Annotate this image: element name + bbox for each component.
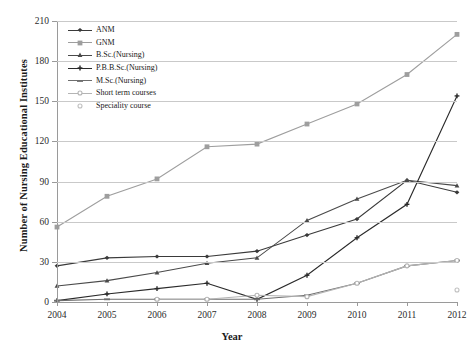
data-point-marker	[155, 297, 159, 301]
y-axis-title: Number of Nursing Educational Institutes	[18, 41, 29, 271]
data-point-marker	[305, 233, 310, 237]
y-tick-label: 120	[11, 136, 49, 146]
legend-item-short-term-courses[interactable]: Short term courses	[68, 87, 157, 100]
y-tick-mark	[52, 141, 57, 142]
data-point-marker	[155, 176, 160, 181]
legend-item-p-b-b-sc-nursing[interactable]: P.B.B.Sc.(Nursing)	[68, 62, 157, 75]
x-tick-label: 2009	[284, 310, 330, 320]
data-point-marker	[104, 298, 110, 300]
y-tick-label: 90	[11, 177, 49, 187]
gridline	[57, 141, 457, 142]
legend-swatch-icon	[68, 88, 92, 98]
gridline	[57, 262, 457, 263]
data-point-marker	[405, 72, 410, 77]
legend-label: P.B.B.Sc.(Nursing)	[96, 64, 157, 72]
data-point-marker	[205, 144, 210, 149]
y-tick-mark	[52, 21, 57, 22]
series-line	[57, 180, 457, 286]
y-tick-label: 0	[11, 297, 49, 307]
data-point-marker	[455, 94, 460, 99]
data-point-marker	[305, 295, 309, 299]
legend-label: M.Sc.(Nursing)	[96, 77, 146, 85]
data-point-marker	[205, 297, 209, 301]
data-point-marker	[78, 53, 83, 57]
data-point-marker	[405, 264, 409, 268]
legend-label: Short term courses	[96, 89, 156, 97]
x-tick-label: 2006	[134, 310, 180, 320]
legend-label: ANM	[96, 26, 115, 34]
x-tick-mark	[207, 302, 208, 306]
legend-swatch-icon	[68, 63, 92, 73]
data-point-marker	[155, 286, 160, 291]
data-point-marker	[105, 256, 110, 260]
data-point-marker	[205, 281, 210, 286]
x-tick-label: 2008	[234, 310, 280, 320]
y-tick-label: 180	[11, 56, 49, 66]
y-tick-label: 210	[11, 16, 49, 26]
series-line	[157, 261, 457, 300]
series-p-b-b-sc-nursing	[55, 94, 460, 304]
x-tick-mark	[357, 302, 358, 306]
data-point-marker	[78, 40, 83, 45]
y-tick-mark	[52, 61, 57, 62]
data-point-marker	[155, 254, 160, 258]
legend-swatch-icon	[68, 76, 92, 86]
legend-swatch-icon	[68, 38, 92, 48]
data-point-marker	[78, 66, 83, 71]
x-tick-mark	[57, 302, 58, 306]
legend-item-b-sc-nursing[interactable]: B.Sc.(Nursing)	[68, 49, 157, 62]
legend-label: GNM	[96, 39, 115, 47]
x-tick-label: 2011	[384, 310, 430, 320]
legend-item-speciality-course[interactable]: Speciality course	[68, 100, 157, 113]
data-point-marker	[105, 194, 110, 199]
y-tick-mark	[52, 222, 57, 223]
data-point-marker	[255, 249, 260, 253]
y-tick-label: 30	[11, 257, 49, 267]
y-tick-mark	[52, 262, 57, 263]
legend-item-anm[interactable]: ANM	[68, 24, 157, 37]
y-tick-mark	[52, 182, 57, 183]
y-axis-line	[57, 21, 58, 302]
gridline	[57, 182, 457, 183]
data-point-marker	[455, 190, 460, 194]
legend: ANMGNMB.Sc.(Nursing)P.B.B.Sc.(Nursing)M.…	[68, 24, 157, 112]
series-b-sc-nursing	[55, 178, 460, 288]
data-point-marker	[305, 122, 310, 127]
legend-swatch-icon	[68, 25, 92, 35]
y-tick-label: 60	[11, 217, 49, 227]
legend-item-gnm[interactable]: GNM	[68, 37, 157, 50]
x-tick-mark	[157, 302, 158, 306]
legend-item-m-sc-nursing[interactable]: M.Sc.(Nursing)	[68, 74, 157, 87]
data-point-marker	[78, 91, 82, 95]
legend-swatch-icon	[68, 50, 92, 60]
x-tick-mark	[257, 302, 258, 306]
data-point-marker	[105, 292, 110, 297]
data-point-marker	[255, 142, 260, 147]
x-tick-label: 2012	[434, 310, 471, 320]
data-point-marker	[78, 28, 83, 32]
y-tick-label: 150	[11, 96, 49, 106]
series-line	[57, 96, 457, 301]
series-anm	[55, 178, 460, 268]
data-point-marker	[455, 288, 459, 292]
y-tick-mark	[52, 101, 57, 102]
x-tick-mark	[457, 302, 458, 306]
x-tick-mark	[307, 302, 308, 306]
series-speciality-course	[455, 288, 459, 292]
x-tick-mark	[407, 302, 408, 306]
gridline	[57, 21, 457, 22]
data-point-marker	[255, 293, 259, 297]
data-point-marker	[355, 281, 359, 285]
data-point-marker	[77, 80, 83, 82]
x-tick-label: 2010	[334, 310, 380, 320]
legend-swatch-icon	[68, 101, 92, 111]
x-tick-label: 2004	[34, 310, 80, 320]
x-tick-label: 2005	[84, 310, 130, 320]
data-point-marker	[78, 104, 82, 108]
x-tick-label: 2007	[184, 310, 230, 320]
data-point-marker	[355, 102, 360, 107]
data-point-marker	[205, 254, 210, 258]
gridline	[57, 222, 457, 223]
data-point-marker	[254, 298, 260, 300]
